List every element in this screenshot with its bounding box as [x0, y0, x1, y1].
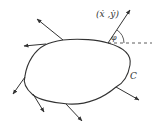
phi-label: φ — [111, 33, 117, 42]
arrow-bottom — [66, 104, 82, 121]
curve-c — [24, 39, 130, 104]
arrow-bottom-right — [116, 87, 139, 100]
arrow-left-lower — [13, 77, 25, 94]
arrow-bottom-left — [33, 94, 44, 112]
closed-curve-diagram: (ẋ ,ẏ) φ C — [0, 0, 159, 133]
curve-label: C — [130, 71, 137, 81]
arrow-top-left — [37, 19, 63, 40]
phi-arc — [117, 30, 124, 43]
velocity-label: (ẋ ,ẏ) — [96, 9, 119, 19]
